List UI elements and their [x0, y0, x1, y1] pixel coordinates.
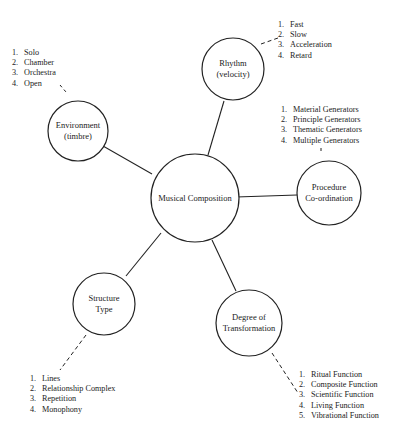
list-item: 3.Acceleration — [278, 40, 332, 50]
node-title: Degree of — [223, 312, 276, 323]
list-item: 4.Multiple Generators — [281, 136, 362, 146]
leader-structure — [60, 335, 86, 370]
node-rhythm-label: Rhythm (velocity) — [216, 58, 249, 80]
node-degree-label: Degree of Transformation — [223, 312, 276, 334]
node-subtitle: (velocity) — [216, 69, 249, 80]
procedure-list: 1.Material Generators 2.Principle Genera… — [281, 105, 362, 146]
node-subtitle: Type — [88, 304, 119, 315]
environment-list: 1.Solo 2.Chamber 3.Orchestra 4.Open — [12, 48, 56, 89]
leader-degree — [272, 353, 298, 393]
leader-rhythm — [261, 38, 278, 44]
list-item: 1.Material Generators — [281, 105, 362, 115]
node-subtitle: (timbre) — [56, 131, 100, 142]
connector-structure — [126, 233, 161, 276]
list-item: 4.Living Function — [299, 401, 379, 411]
node-structure-label: Structure Type — [88, 293, 119, 315]
list-item: 1.Lines — [30, 374, 115, 384]
list-item: 4.Retard — [278, 51, 332, 61]
list-item: 4.Monophony — [30, 405, 115, 415]
node-procedure-label: Procedure Co-ordination — [305, 182, 353, 204]
node-title: Environment — [56, 120, 100, 131]
list-item: 2.Chamber — [12, 58, 56, 68]
list-item: 2.Relationship Complex — [30, 384, 115, 394]
list-item: 3.Thematic Generators — [281, 125, 362, 135]
rhythm-list: 1.Fast 2.Slow 3.Acceleration 4.Retard — [278, 20, 332, 61]
list-item: 1.Ritual Function — [299, 370, 379, 380]
node-subtitle: Co-ordination — [305, 193, 353, 204]
list-item: 3.Scientific Function — [299, 390, 379, 400]
list-item: 1.Fast — [278, 20, 332, 30]
node-musical-composition-label: Musical Composition — [158, 193, 231, 204]
node-environment-label: Environment (timbre) — [56, 120, 100, 142]
list-item: 3.Repetition — [30, 394, 115, 404]
degree-list: 1.Ritual Function 2.Composite Function 3… — [299, 370, 379, 421]
connector-environment — [103, 146, 152, 174]
node-title: Procedure — [305, 182, 353, 193]
list-item: 2.Composite Function — [299, 380, 379, 390]
list-item: 2.Principle Generators — [281, 115, 362, 125]
list-item: 4.Open — [12, 79, 56, 89]
node-title: Rhythm — [216, 58, 249, 69]
connector-degree — [212, 240, 236, 291]
leader-environment — [60, 85, 66, 92]
connector-procedure — [236, 195, 297, 197]
list-item: 1.Solo — [12, 48, 56, 58]
list-item: 3.Orchestra — [12, 68, 56, 78]
node-title: Structure — [88, 293, 119, 304]
node-subtitle: Transformation — [223, 323, 276, 334]
list-item: 5.Vibrational Function — [299, 411, 379, 421]
connector-rhythm — [208, 101, 224, 155]
structure-list: 1.Lines 2.Relationship Complex 3.Repetit… — [30, 374, 115, 415]
center-label: Musical Composition — [158, 193, 231, 203]
list-item: 2.Slow — [278, 30, 332, 40]
